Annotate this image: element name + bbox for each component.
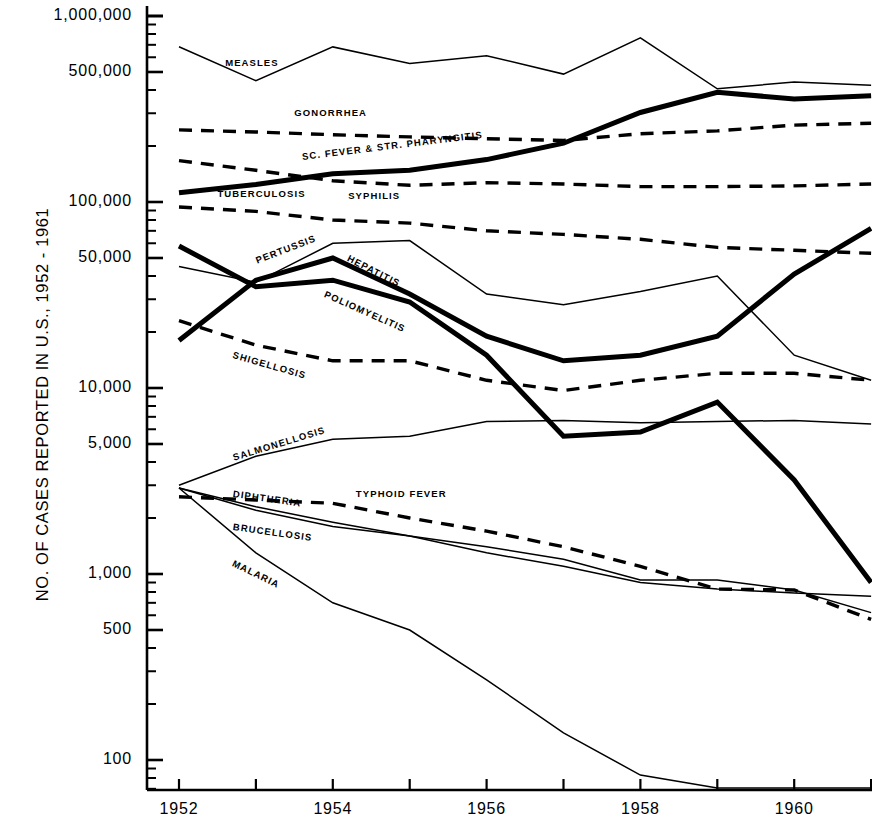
series-label-typhoid-fever: TYPHOID FEVER xyxy=(356,488,447,499)
series-line-shigellosis xyxy=(179,321,871,391)
series-layer xyxy=(179,38,871,788)
series-label-syphilis: SYPHILIS xyxy=(348,190,400,201)
series-line-diphtheria xyxy=(179,488,871,613)
plot-area xyxy=(0,0,872,832)
y-tick-marks xyxy=(147,16,163,789)
series-line-pertussis xyxy=(179,241,871,381)
disease-cases-line-chart: NO. OF CASES REPORTED IN U.S., 1952 - 19… xyxy=(0,0,872,832)
series-label-gonorrhea: GONORRHEA xyxy=(294,107,367,118)
series-label-tuberculosis: TUBERCULOSIS xyxy=(217,188,305,199)
series-line-gonorrhea xyxy=(179,123,871,140)
axis-lines xyxy=(147,6,872,790)
series-line-measles xyxy=(179,38,871,89)
series-label-measles: MEASLES xyxy=(225,57,279,68)
series-line-sc-fever-str-pharyngitis xyxy=(179,92,871,193)
series-line-typhoid-fever xyxy=(179,497,871,620)
